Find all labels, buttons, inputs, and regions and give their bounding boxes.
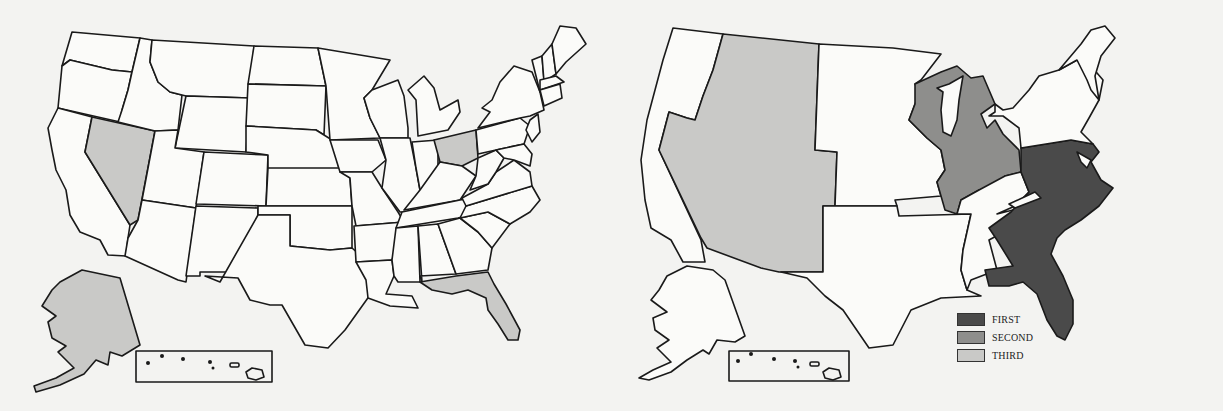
legend-item-third: THIRD (957, 347, 1033, 363)
legend-swatch-first (957, 313, 985, 326)
legend-label-third: THIRD (992, 350, 1024, 361)
state-wyoming (175, 96, 250, 152)
figure: FIRST SECOND THIRD (0, 0, 1223, 411)
us-regions-map: FIRST SECOND THIRD (611, 0, 1223, 411)
us-states-map (0, 0, 611, 411)
state-maine (552, 26, 586, 74)
state-montana (150, 40, 254, 98)
state-ohio (434, 130, 478, 166)
legend-label-first: FIRST (992, 314, 1020, 325)
hawaii-inset (136, 351, 272, 382)
us-states-map-svg (0, 0, 611, 411)
legend: FIRST SECOND THIRD (957, 311, 1033, 365)
state-iowa (330, 140, 386, 172)
legend-item-first: FIRST (957, 311, 1033, 327)
legend-swatch-third (957, 349, 985, 362)
state-michigan (408, 76, 460, 136)
state-alaska (34, 270, 140, 392)
state-north-dakota (248, 46, 326, 86)
legend-item-second: SECOND (957, 329, 1033, 345)
us-regions-map-svg (611, 0, 1223, 411)
state-mississippi (392, 226, 420, 282)
state-florida (420, 272, 520, 340)
state-new-jersey (526, 114, 540, 142)
state-colorado (196, 152, 268, 206)
state-kansas (266, 168, 352, 206)
legend-swatch-second (957, 331, 985, 344)
hawaii-inset (729, 351, 849, 381)
legend-label-second: SECOND (992, 332, 1033, 343)
